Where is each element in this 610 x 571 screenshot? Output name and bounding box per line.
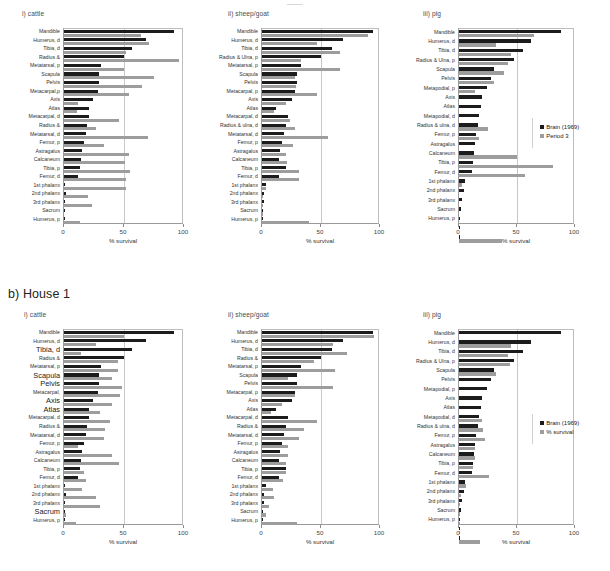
bar-series0[interactable] bbox=[262, 510, 263, 513]
bar-series1[interactable] bbox=[262, 136, 328, 139]
bar-series0[interactable] bbox=[64, 38, 146, 41]
bar-series0[interactable] bbox=[262, 115, 288, 118]
chart-a-i-cattle[interactable]: MandibleHumerus, dTibia, dRadius &Metata… bbox=[6, 28, 183, 244]
bar-series0[interactable] bbox=[262, 98, 292, 101]
bar-series0[interactable] bbox=[262, 416, 288, 419]
bar-series1[interactable] bbox=[262, 119, 290, 122]
bar-series1[interactable] bbox=[64, 136, 148, 139]
bar-series0[interactable] bbox=[262, 348, 332, 351]
bar-series0[interactable] bbox=[64, 356, 124, 359]
bar-series1[interactable] bbox=[262, 178, 299, 181]
bar-series0[interactable] bbox=[262, 38, 343, 41]
bar-series0[interactable] bbox=[459, 443, 475, 446]
bar-series1[interactable] bbox=[64, 204, 92, 207]
bar-series1[interactable] bbox=[459, 344, 511, 347]
bar-series1[interactable] bbox=[459, 438, 485, 441]
bar-series0[interactable] bbox=[262, 373, 297, 376]
bar-series1[interactable] bbox=[64, 343, 96, 346]
bar-series0[interactable] bbox=[64, 90, 98, 93]
bar-series1[interactable] bbox=[262, 369, 335, 372]
bar-series1[interactable] bbox=[262, 68, 340, 71]
bar-series0[interactable] bbox=[64, 98, 93, 101]
bar-series0[interactable] bbox=[459, 387, 487, 390]
bar-series0[interactable] bbox=[459, 378, 491, 381]
bar-series0[interactable] bbox=[64, 209, 65, 212]
bar-series1[interactable] bbox=[64, 522, 76, 525]
bar-series1[interactable] bbox=[64, 68, 124, 71]
bar-series0[interactable] bbox=[459, 518, 460, 521]
bar-series1[interactable] bbox=[459, 90, 475, 93]
bar-series0[interactable] bbox=[459, 471, 472, 474]
bar-series0[interactable] bbox=[459, 415, 479, 418]
bar-series1[interactable] bbox=[64, 153, 129, 156]
bar-series1[interactable] bbox=[64, 411, 100, 414]
bar-series0[interactable] bbox=[64, 339, 146, 342]
bar-series1[interactable] bbox=[64, 127, 96, 130]
bar-series0[interactable] bbox=[64, 141, 84, 144]
bar-series1[interactable] bbox=[262, 479, 283, 482]
chart-b-ii-sheepgoat[interactable]: MandibleHumerus, dTibia, dRadius &Metata… bbox=[200, 329, 379, 545]
bar-series0[interactable] bbox=[262, 149, 280, 152]
bar-series1[interactable] bbox=[262, 42, 317, 45]
bar-series1[interactable] bbox=[64, 144, 104, 147]
bar-series1[interactable] bbox=[459, 155, 517, 158]
bar-series0[interactable] bbox=[64, 433, 86, 436]
bar-series1[interactable] bbox=[459, 494, 461, 497]
bar-series1[interactable] bbox=[262, 76, 295, 79]
bar-series1[interactable] bbox=[262, 394, 295, 397]
bar-series0[interactable] bbox=[262, 209, 263, 212]
bar-series0[interactable] bbox=[262, 64, 301, 67]
bar-series0[interactable] bbox=[64, 399, 93, 402]
bar-series0[interactable] bbox=[262, 331, 373, 334]
bar-series0[interactable] bbox=[64, 124, 87, 127]
bar-series1[interactable] bbox=[459, 354, 508, 357]
bar-series0[interactable] bbox=[459, 67, 494, 70]
bar-series1[interactable] bbox=[64, 454, 112, 457]
bar-series1[interactable] bbox=[459, 512, 460, 515]
bar-series1[interactable] bbox=[262, 343, 333, 346]
bar-series0[interactable] bbox=[64, 158, 81, 161]
bar-series0[interactable] bbox=[262, 484, 266, 487]
bar-series1[interactable] bbox=[459, 165, 553, 168]
bar-series0[interactable] bbox=[64, 442, 84, 445]
bar-series0[interactable] bbox=[459, 350, 523, 353]
bar-series1[interactable] bbox=[64, 352, 81, 355]
bar-series1[interactable] bbox=[262, 221, 309, 224]
bar-series0[interactable] bbox=[459, 198, 462, 201]
bar-series0[interactable] bbox=[459, 49, 523, 52]
bar-series1[interactable] bbox=[64, 221, 80, 224]
legend-entry[interactable]: % survival bbox=[540, 429, 579, 435]
bar-series1[interactable] bbox=[262, 187, 266, 190]
bar-series0[interactable] bbox=[64, 47, 132, 50]
bar-series1[interactable] bbox=[459, 503, 460, 506]
bar-series0[interactable] bbox=[459, 161, 473, 164]
bar-series0[interactable] bbox=[64, 183, 65, 186]
legend-entry[interactable]: Period 3 bbox=[540, 133, 579, 139]
bar-series1[interactable] bbox=[262, 102, 286, 105]
bar-series1[interactable] bbox=[64, 513, 66, 516]
bar-series0[interactable] bbox=[64, 149, 82, 152]
bar-series1[interactable] bbox=[459, 137, 479, 140]
bar-series1[interactable] bbox=[64, 445, 78, 448]
bar-series0[interactable] bbox=[262, 217, 263, 220]
bar-series0[interactable] bbox=[64, 107, 89, 110]
bar-series1[interactable] bbox=[64, 93, 129, 96]
bar-series0[interactable] bbox=[262, 365, 301, 368]
bar-series0[interactable] bbox=[459, 77, 491, 80]
bar-series0[interactable] bbox=[64, 373, 99, 376]
bar-series1[interactable] bbox=[459, 522, 460, 525]
bar-series1[interactable] bbox=[459, 81, 494, 84]
bar-series1[interactable] bbox=[64, 386, 122, 389]
bar-series1[interactable] bbox=[64, 187, 126, 190]
bar-series0[interactable] bbox=[262, 425, 286, 428]
bar-series0[interactable] bbox=[459, 340, 531, 343]
bar-series0[interactable] bbox=[64, 72, 99, 75]
bar-series1[interactable] bbox=[262, 51, 340, 54]
bar-series1[interactable] bbox=[459, 53, 511, 56]
bar-series0[interactable] bbox=[459, 217, 460, 220]
bar-series0[interactable] bbox=[64, 425, 87, 428]
bar-series1[interactable] bbox=[64, 51, 126, 54]
bar-series0[interactable] bbox=[459, 462, 473, 465]
bar-series0[interactable] bbox=[262, 459, 279, 462]
bar-series0[interactable] bbox=[459, 424, 478, 427]
